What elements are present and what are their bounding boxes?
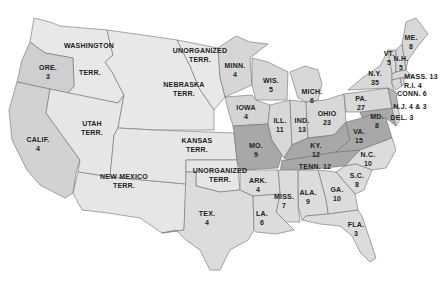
region-value: 15 (353, 136, 365, 145)
region-value: 4 (27, 144, 50, 153)
label-md: MD.8 (370, 112, 383, 130)
label-pa: PA.27 (355, 94, 367, 112)
region-value: 4 (225, 70, 246, 79)
region-value: TERR. (173, 55, 227, 64)
region-name: TENN. 12 (299, 162, 331, 171)
region-value: 12 (310, 150, 322, 159)
region-name: MICH. (302, 87, 323, 96)
region-value: TERR. (100, 181, 148, 190)
region-florida (302, 210, 376, 262)
label-ala: ALA.9 (299, 188, 316, 206)
label-ind: IND.13 (295, 116, 310, 134)
region-value: 27 (355, 103, 367, 112)
label-wash-sub: TERR. (79, 68, 101, 77)
region-name: MISS. (274, 192, 294, 201)
electoral-map-1856: WASHINGTONTERR.ORE.3CALIF.4UTAHTERR.NEBR… (0, 0, 446, 281)
region-name: UTAH (81, 119, 103, 128)
label-la: LA.6 (256, 209, 268, 227)
region-name: CONN. 6 (397, 89, 427, 98)
region-name: N.Y. (368, 69, 382, 78)
region-name: MO. (249, 141, 263, 150)
region-name: ILL. (273, 116, 286, 125)
region-name: NEW MEXICO (100, 172, 148, 181)
label-mo: MO.9 (249, 141, 263, 159)
region-name: NEBRASKA (163, 80, 204, 89)
region-value: 10 (330, 194, 343, 203)
region-value: 8 (404, 42, 417, 51)
label-utah: UTAHTERR. (81, 119, 103, 137)
region-name: IND. (295, 116, 310, 125)
region-name: ALA. (299, 188, 316, 197)
label-miss: MISS.7 (274, 192, 294, 210)
region-value: 23 (318, 118, 337, 127)
region-name: LA. (256, 209, 268, 218)
region-name: UNORGANIZED (193, 166, 247, 175)
region-value: 6 (302, 96, 323, 105)
label-me: ME.8 (404, 33, 417, 51)
region-value: 3 (348, 229, 364, 238)
region-name: N.J. 4 & 3 (393, 102, 427, 111)
label-kansas: KANSASTERR. (182, 136, 213, 154)
region-name: CALIF. (27, 135, 50, 144)
region-name: S.C. (350, 171, 364, 180)
region-name: GA. (330, 185, 343, 194)
region-name: KANSAS (182, 136, 213, 145)
label-ore: ORE.3 (39, 63, 57, 81)
region-value: 9 (299, 197, 316, 206)
region-value: 3 (39, 72, 57, 81)
label-wis: WIS.5 (263, 76, 279, 94)
region-name: ARK. (249, 176, 267, 185)
region-name: VA. (353, 127, 365, 136)
region-name: FLA. (348, 220, 364, 229)
label-mass: MASS. 13 (404, 72, 438, 81)
label-mich: MICH.6 (302, 87, 323, 105)
region-name: ME. (404, 33, 417, 42)
label-unorg_s: UNORGANIZEDTERR. (193, 166, 247, 184)
label-ny: N.Y.35 (368, 69, 382, 87)
region-pennsylvania (344, 88, 392, 112)
label-nj: N.J. 4 & 3 (393, 102, 427, 111)
region-value: 7 (274, 201, 294, 210)
region-name: OHIO (318, 109, 337, 118)
label-nm: NEW MEXICOTERR. (100, 172, 148, 190)
label-nc: N.C.10 (361, 150, 376, 168)
region-name: TEX. (199, 209, 215, 218)
label-ohio: OHIO23 (318, 109, 337, 127)
region-name: PA. (355, 94, 367, 103)
label-ga: GA.10 (330, 185, 343, 203)
label-nebr: NEBRASKATERR. (163, 80, 204, 98)
label-sc: S.C.8 (350, 171, 364, 189)
label-del: DEL. 3 (391, 113, 414, 122)
label-conn: CONN. 6 (397, 89, 427, 98)
region-value: TERR. (182, 145, 213, 154)
label-nh: N.H.5 (394, 54, 409, 72)
region-name: MASS. 13 (404, 72, 438, 81)
label-unorg_n: UNORGANIZEDTERR. (173, 46, 227, 64)
label-tenn: TENN. 12 (299, 162, 331, 171)
region-value: 11 (273, 125, 286, 134)
region-value: 4 (249, 185, 267, 194)
label-va: VA.15 (353, 127, 365, 145)
region-value: 13 (295, 125, 310, 134)
region-value: 5 (263, 85, 279, 94)
region-value: 8 (350, 180, 364, 189)
region-name: ORE. (39, 63, 57, 72)
region-name: WASHINGTON (64, 41, 114, 50)
region-value: TERR. (193, 175, 247, 184)
region-name: WIS. (263, 76, 279, 85)
region-name: KY. (310, 141, 322, 150)
region-value: TERR. (163, 89, 204, 98)
region-value: 4 (199, 218, 215, 227)
region-value: 4 (236, 112, 255, 121)
region-value: 35 (368, 78, 382, 87)
region-name: N.H. (394, 54, 409, 63)
region-name: MD. (370, 112, 383, 121)
label-calif: CALIF.4 (27, 135, 50, 153)
region-name: MINN. (225, 61, 246, 70)
region-name: IOWA (236, 103, 255, 112)
region-value: 6 (256, 218, 268, 227)
label-ky: KY.12 (310, 141, 322, 159)
region-value: TERR. (81, 128, 103, 137)
label-ark: ARK.4 (249, 176, 267, 194)
region-value: 8 (370, 121, 383, 130)
